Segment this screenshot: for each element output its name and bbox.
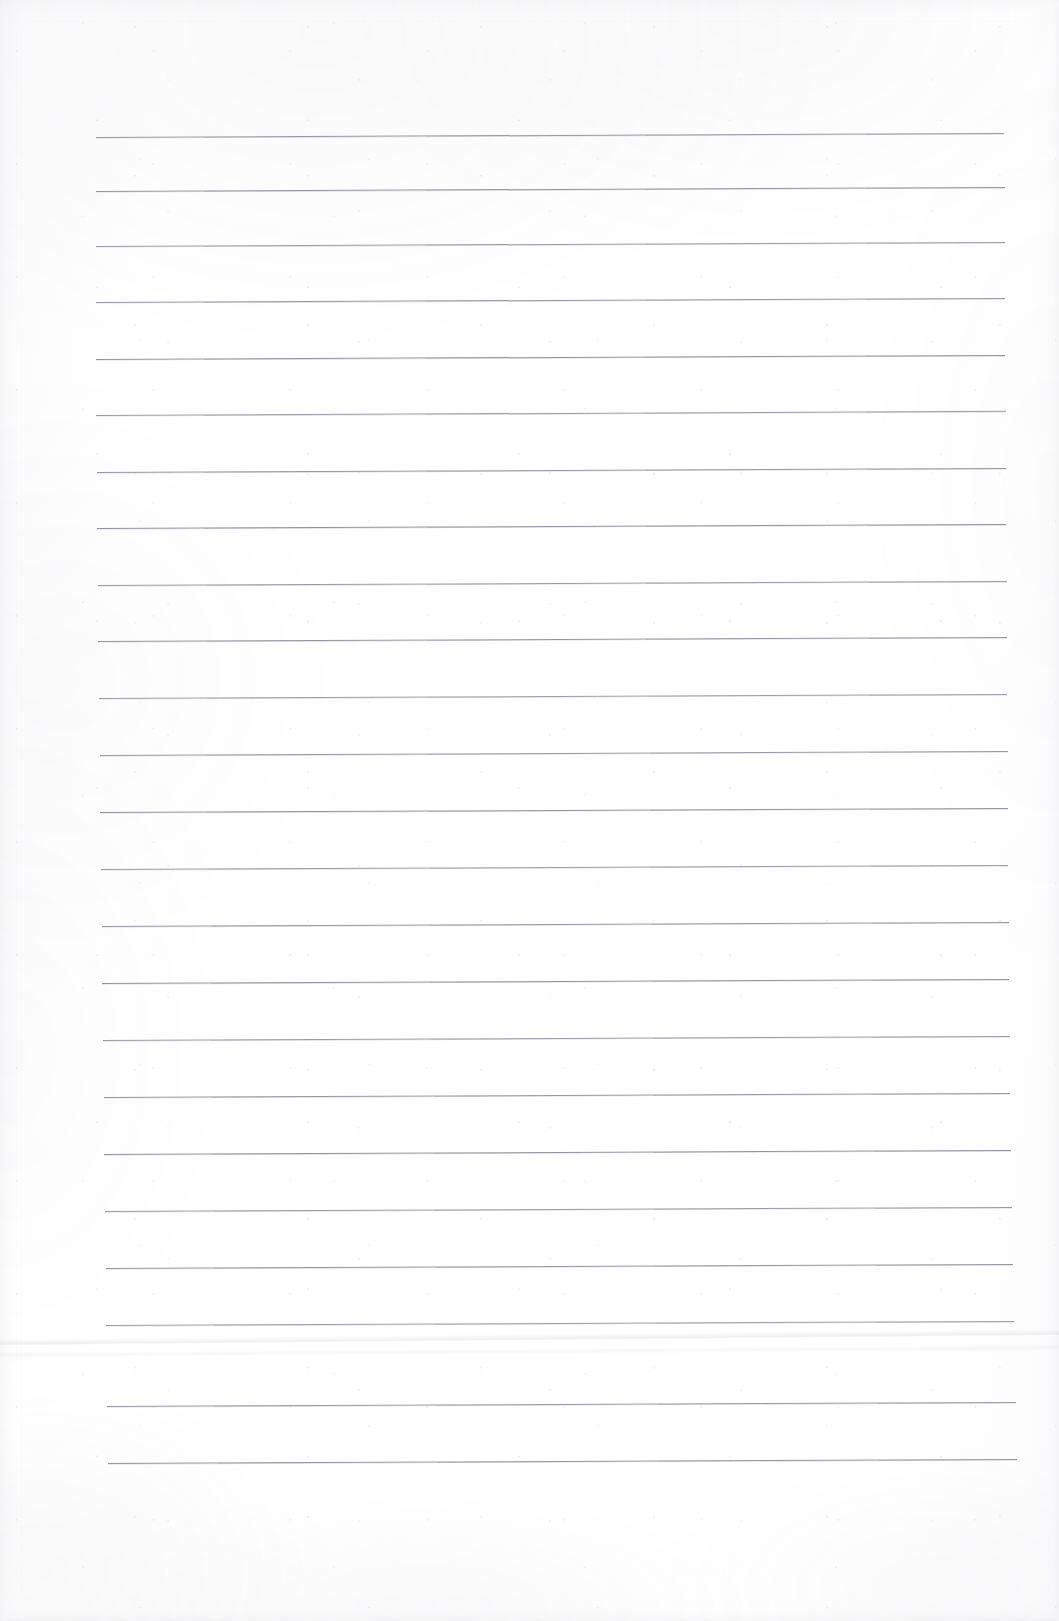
rule-line	[104, 1150, 1011, 1155]
rule-line	[98, 581, 1007, 586]
rule-line	[100, 808, 1008, 813]
rule-line	[103, 1036, 1010, 1041]
rule-line	[100, 751, 1008, 756]
ruled-lines-group	[0, 0, 1059, 1621]
scanned-page	[0, 0, 1059, 1621]
rule-line	[102, 922, 1009, 927]
rule-line	[97, 524, 1006, 529]
rule-line	[102, 979, 1009, 984]
rule-line	[97, 468, 1006, 473]
rule-line	[96, 187, 1005, 192]
rule-line	[104, 1093, 1010, 1098]
rule-line	[108, 1459, 1017, 1464]
rule-line	[107, 1402, 1016, 1407]
rule-line	[96, 411, 1006, 416]
rule-line	[96, 355, 1005, 360]
rule-line	[106, 1264, 1013, 1269]
rule-line	[96, 133, 1004, 138]
rule-line	[96, 298, 1005, 303]
rule-line	[105, 1207, 1012, 1212]
rule-line	[101, 865, 1008, 870]
rule-line	[99, 694, 1007, 699]
rule-line	[96, 242, 1005, 247]
rule-line	[98, 637, 1007, 642]
rule-line	[106, 1321, 1014, 1326]
